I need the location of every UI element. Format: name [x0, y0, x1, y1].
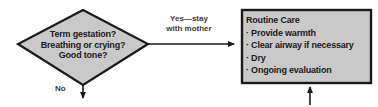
routine-care-bullet-4: · Ongoing evaluation — [246, 64, 370, 77]
decision-line-1: Term gestation? — [50, 29, 116, 39]
no-edge-label: No — [55, 84, 73, 94]
flowchart-canvas: Term gestation? Breathing or crying? Goo… — [0, 0, 378, 107]
routine-care-bullet-4-label: Ongoing evaluation — [251, 65, 331, 75]
decision-label: Term gestation? Breathing or crying? Goo… — [20, 29, 146, 61]
yes-edge-label-line-1: Yes—stay — [170, 14, 208, 23]
routine-care-bullet-1-label: Provide warmth — [251, 28, 316, 38]
routine-care-bullet-2: · Clear airway if necessary — [246, 39, 370, 52]
routine-care-bullet-2-label: Clear airway if necessary — [251, 40, 354, 50]
routine-care-bullet-1: · Provide warmth — [246, 27, 370, 40]
decision-line-3: Good tone? — [59, 50, 108, 60]
routine-care-title: Routine Care — [246, 14, 370, 27]
yes-edge-label: Yes—stay with mother — [160, 14, 218, 33]
routine-care-bullet-3-label: Dry — [251, 53, 265, 63]
routine-care-text: Routine Care · Provide warmth · Clear ai… — [246, 14, 370, 77]
routine-care-bullet-3: · Dry — [246, 52, 370, 65]
decision-line-2: Breathing or crying? — [41, 40, 126, 50]
yes-edge-label-line-2: with mother — [166, 24, 211, 33]
